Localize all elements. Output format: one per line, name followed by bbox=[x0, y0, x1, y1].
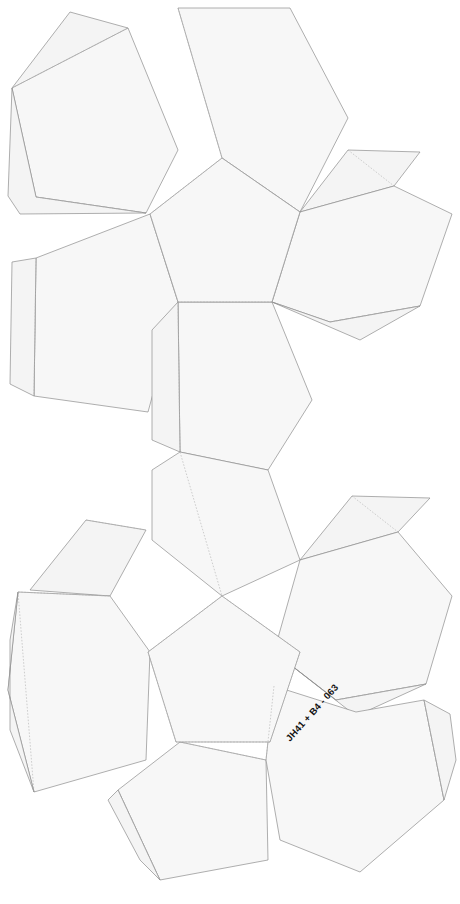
lower-cluster bbox=[8, 452, 456, 880]
glue-tab-upper-west-outer bbox=[10, 258, 36, 396]
upper-cluster bbox=[8, 8, 452, 470]
face-lower-top-petal bbox=[152, 452, 300, 596]
face-lower-left-petal bbox=[8, 592, 150, 792]
face-upper-bottom-petal bbox=[178, 302, 312, 470]
face-lower-right-petal bbox=[274, 532, 452, 700]
papercraft-sheet: JH41 + B4 - 063 bbox=[0, 0, 460, 904]
dodecahedron-net-drawing: JH41 + B4 - 063 bbox=[0, 0, 460, 904]
face-lower-bottomright-petal bbox=[266, 686, 444, 872]
glue-tab-lower-left-top bbox=[30, 520, 146, 596]
